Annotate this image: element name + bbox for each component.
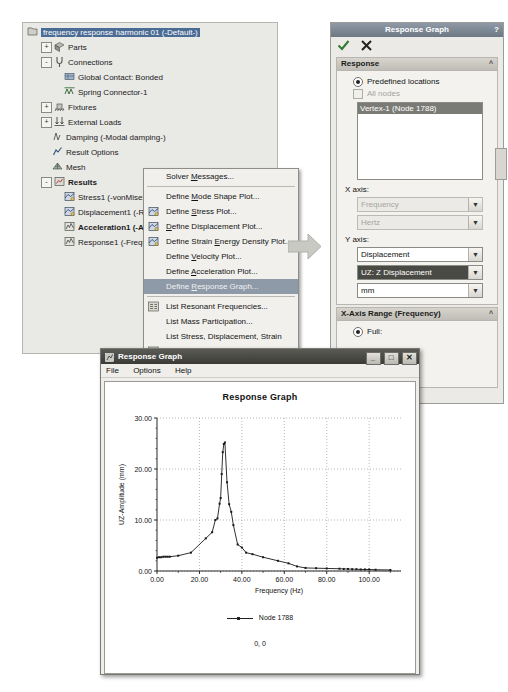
- graph-window-title-bar[interactable]: Response Graph _ □ ✕: [101, 349, 419, 364]
- close-button[interactable]: ✕: [402, 352, 417, 365]
- tree-expander[interactable]: +: [41, 117, 52, 128]
- acceleration-plot-icon: [64, 221, 75, 232]
- chevron-down-icon: ▼: [468, 216, 482, 229]
- strain-plot-icon: [148, 236, 159, 247]
- svg-text:80.00: 80.00: [318, 576, 336, 583]
- chart-legend: Node 1788: [105, 614, 415, 621]
- tree-item-label: Global Contact: Bonded: [78, 73, 163, 82]
- tree-expander[interactable]: -: [41, 177, 52, 188]
- menu-item-label: Solver Messages...: [166, 172, 234, 181]
- response-section-title: Response: [341, 59, 379, 68]
- results-icon: [54, 176, 65, 187]
- svg-text:100.00: 100.00: [358, 576, 380, 583]
- menu-item-define-velocity-plot[interactable]: Define Velocity Plot...: [144, 249, 298, 264]
- y-axis-quantity-value: Displacement: [361, 250, 409, 259]
- chevron-down-icon[interactable]: ▼: [468, 266, 482, 279]
- tree-item-parts[interactable]: +Parts: [23, 40, 277, 55]
- tree-item-fixtures[interactable]: +Fixtures: [23, 100, 277, 115]
- tree-item-damping-modal-damping[interactable]: Damping (-Modal damping-): [23, 130, 277, 145]
- y-axis-quantity-combo[interactable]: Displacement ▼: [357, 247, 483, 262]
- menu-item-label: List Stress, Displacement, Strain: [166, 332, 282, 341]
- menu-item-define-displacement-plot[interactable]: Define Displacement Plot...: [144, 219, 298, 234]
- graph-canvas: Response Graph 0.0010.0020.0030.000.0020…: [104, 381, 416, 674]
- menu-file[interactable]: File: [106, 366, 119, 375]
- menu-item-solver-messages[interactable]: Solver Messages...: [144, 169, 298, 184]
- menu-item-label: List Resonant Frequencies...: [166, 302, 268, 311]
- property-manager-title: Response Graph: [385, 25, 449, 34]
- graph-window-icon: [105, 352, 114, 361]
- tree-expander[interactable]: -: [41, 57, 52, 68]
- tree-item-label: Results: [68, 178, 97, 187]
- menu-item-label: Define Stress Plot...: [166, 207, 237, 216]
- tree-item-label: Mesh: [66, 163, 86, 172]
- chevron-down-icon[interactable]: ▼: [468, 284, 482, 297]
- window-controls: _ □ ✕: [365, 350, 417, 365]
- x-axis-range-header[interactable]: X-Axis Range (Frequency) ^: [337, 308, 497, 321]
- damping-icon: [52, 131, 63, 142]
- x-axis-title: Frequency (Hz): [255, 587, 303, 595]
- svg-text:20.00: 20.00: [191, 576, 209, 583]
- x-axis-unit-value: Hertz: [361, 218, 380, 227]
- y-axis-unit-value: mm: [361, 286, 374, 295]
- plot-area: 0.0010.0020.0030.000.0020.0040.0060.0080…: [113, 410, 407, 595]
- tree-expander[interactable]: +: [41, 102, 52, 113]
- chevron-down-icon[interactable]: ▼: [468, 248, 482, 261]
- tree-item-external-loads[interactable]: +External Loads: [23, 115, 277, 130]
- tree-item-label: Stress1 (-vonMises-): [78, 193, 152, 202]
- tree-item-connections[interactable]: -Connections: [23, 55, 277, 70]
- menu-item-define-mode-shape-plot[interactable]: Define Mode Shape Plot...: [144, 189, 298, 204]
- chart-title: Response Graph: [105, 392, 415, 402]
- menu-item-list-stress-displacement-strain[interactable]: List Stress, Displacement, Strain: [144, 329, 298, 344]
- menu-separator: [147, 186, 295, 187]
- menu-item-label: Define Strain Energy Density Plot...: [166, 237, 291, 246]
- chevron-up-icon[interactable]: ^: [489, 308, 493, 320]
- study-icon: [27, 26, 38, 37]
- tree-item-label: Parts: [68, 43, 87, 52]
- menu-item-define-response-graph[interactable]: Define Response Graph...: [144, 279, 298, 294]
- tree-item-label: Connections: [68, 58, 112, 67]
- graph-window-title: Response Graph: [118, 352, 182, 361]
- y-axis-label: Y axis:: [345, 235, 491, 244]
- property-manager-toolbar: [331, 37, 503, 55]
- tree-item-global-contact-bonded[interactable]: Global Contact: Bonded: [23, 70, 277, 85]
- selected-entities-listbox[interactable]: Vertex-1 (Node 1788): [357, 102, 483, 180]
- response-graph-property-manager: Response Graph ? Response ^ Predefined l…: [330, 22, 504, 404]
- tree-expander[interactable]: +: [41, 42, 52, 53]
- response-section-header[interactable]: Response ^: [337, 58, 497, 71]
- y-axis-title: UZ-Amplitude (mm): [118, 464, 126, 525]
- chevron-down-icon: ▼: [468, 198, 482, 211]
- help-icon[interactable]: ?: [494, 23, 499, 37]
- response-graph-window: Response Graph _ □ ✕ File Options Help R…: [100, 348, 420, 675]
- minimize-button[interactable]: _: [366, 352, 381, 365]
- full-range-radio[interactable]: [353, 327, 363, 337]
- y-axis-component-combo[interactable]: UZ: Z Displacement ▼: [357, 265, 483, 280]
- cursor-coordinates-readout: 0, 0: [105, 640, 415, 647]
- tree-item-result-options[interactable]: Result Options: [23, 145, 277, 160]
- menu-item-list-resonant-frequencies[interactable]: List Resonant Frequencies...: [144, 299, 298, 314]
- tree-item-label: Damping (-Modal damping-): [66, 133, 166, 142]
- cancel-x-icon[interactable]: [360, 39, 373, 52]
- menu-item-label: Define Response Graph...: [166, 282, 259, 291]
- predefined-locations-radio-row[interactable]: Predefined locations: [353, 77, 491, 87]
- tree-item-spring-connector-1[interactable]: Spring Connector-1: [23, 85, 277, 100]
- connections-icon: [54, 56, 65, 67]
- selected-entity-item[interactable]: Vertex-1 (Node 1788): [358, 103, 482, 114]
- tree-root-item[interactable]: frequency response harmonic 01 (-Default…: [23, 23, 277, 40]
- x-axis-range-title: X-Axis Range (Frequency): [341, 309, 441, 318]
- chevron-up-icon[interactable]: ^: [489, 58, 493, 70]
- menu-options[interactable]: Options: [133, 366, 161, 375]
- menu-item-define-stress-plot[interactable]: Define Stress Plot...: [144, 204, 298, 219]
- svg-text:10.00: 10.00: [134, 517, 152, 524]
- menu-help[interactable]: Help: [175, 366, 191, 375]
- menu-item-list-mass-participation[interactable]: List Mass Participation...: [144, 314, 298, 329]
- maximize-button[interactable]: □: [384, 352, 399, 365]
- ok-check-icon[interactable]: [337, 39, 350, 52]
- menu-item-define-strain-energy-density-plot[interactable]: Define Strain Energy Density Plot...: [144, 234, 298, 249]
- y-axis-unit-combo[interactable]: mm ▼: [357, 283, 483, 298]
- predefined-locations-radio[interactable]: [353, 77, 363, 87]
- menu-item-label: Define Velocity Plot...: [166, 252, 242, 261]
- full-range-radio-row[interactable]: Full:: [353, 327, 491, 337]
- menu-item-define-acceleration-plot[interactable]: Define Acceleration Plot...: [144, 264, 298, 279]
- property-manager-collapse-tab[interactable]: [495, 148, 507, 180]
- menu-item-label: Define Displacement Plot...: [166, 222, 263, 231]
